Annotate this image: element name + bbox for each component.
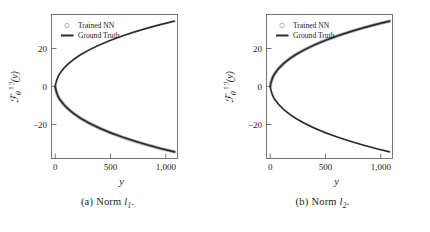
legend-label-trained-nn-a: Trained NN bbox=[78, 21, 115, 30]
caption-period-b: . bbox=[347, 196, 350, 207]
plot-area-b: ℱθ↑ℐ(y) 0 500 1,000 −20 0 bbox=[215, 0, 430, 196]
x-tick-label-0-b: 0 bbox=[268, 162, 273, 172]
y-arg-open: ( bbox=[224, 79, 235, 82]
figure-container: ℱθ↑ℐ(y) 0 500 bbox=[0, 0, 430, 232]
y-arg-close: ) bbox=[224, 71, 235, 74]
up-i-superscript: ↑ℐ bbox=[8, 82, 16, 91]
y-tick-label-neg20-a: −20 bbox=[33, 120, 48, 130]
x-axis-label-text-b: y bbox=[334, 176, 339, 187]
x-tick-label-1000-a: 1,000 bbox=[156, 162, 177, 172]
caption-b: (b)Norm l2. bbox=[296, 197, 350, 210]
y-tick-label-neg20-b: −20 bbox=[248, 120, 263, 130]
up-i-superscript: ↑ℐ bbox=[223, 82, 231, 91]
theta-subscript: θ bbox=[15, 91, 23, 95]
y-arg: y bbox=[9, 74, 20, 78]
y-axis-label-b: ℱθ↑ℐ(y) bbox=[224, 59, 238, 115]
y-arg-close: ) bbox=[9, 71, 20, 74]
x-axis-label-b: y bbox=[215, 176, 430, 187]
chart-a: 0 500 1,000 −20 0 20 Trained NN bbox=[0, 0, 215, 196]
x-tick-label-500-b: 500 bbox=[319, 162, 333, 172]
mathcal-f-symbol: ℱ bbox=[223, 95, 235, 103]
y-tick-label-20-b: 20 bbox=[253, 44, 263, 54]
plot-area-a: ℱθ↑ℐ(y) 0 500 bbox=[0, 0, 215, 196]
caption-label-a: (a) bbox=[81, 196, 93, 207]
y-arg: y bbox=[224, 74, 235, 78]
chart-b: 0 500 1,000 −20 0 20 Trained NN Ground T… bbox=[215, 0, 430, 196]
legend-label-trained-nn-b: Trained NN bbox=[293, 21, 330, 30]
theta-subscript: θ bbox=[230, 91, 238, 95]
legend-label-ground-truth-b: Ground Truth bbox=[293, 31, 335, 40]
caption-a: (a)Norm l1. bbox=[81, 197, 134, 210]
y-tick-label-0-a: 0 bbox=[43, 82, 48, 92]
caption-label-b: (b) bbox=[296, 196, 309, 207]
x-axis-label-text-a: y bbox=[119, 176, 124, 187]
mathcal-f-symbol: ℱ bbox=[8, 95, 20, 103]
y-tick-label-0-b: 0 bbox=[258, 82, 263, 92]
y-arg-open: ( bbox=[9, 79, 20, 82]
subfigure-b: ℱθ↑ℐ(y) 0 500 1,000 −20 0 bbox=[215, 0, 430, 232]
y-tick-label-20-a: 20 bbox=[38, 44, 48, 54]
y-axis-label-a: ℱθ↑ℐ(y) bbox=[9, 59, 23, 115]
caption-text-b: Norm bbox=[311, 196, 336, 207]
subfigure-a: ℱθ↑ℐ(y) 0 500 bbox=[0, 0, 215, 232]
caption-period-a: . bbox=[131, 196, 134, 207]
x-tick-label-1000-b: 1,000 bbox=[371, 162, 392, 172]
x-axis-label-a: y bbox=[0, 176, 229, 187]
legend-label-ground-truth-a: Ground Truth bbox=[78, 31, 120, 40]
caption-text-a: Norm bbox=[96, 196, 121, 207]
x-tick-label-0-a: 0 bbox=[53, 162, 58, 172]
x-tick-label-500-a: 500 bbox=[104, 162, 118, 172]
